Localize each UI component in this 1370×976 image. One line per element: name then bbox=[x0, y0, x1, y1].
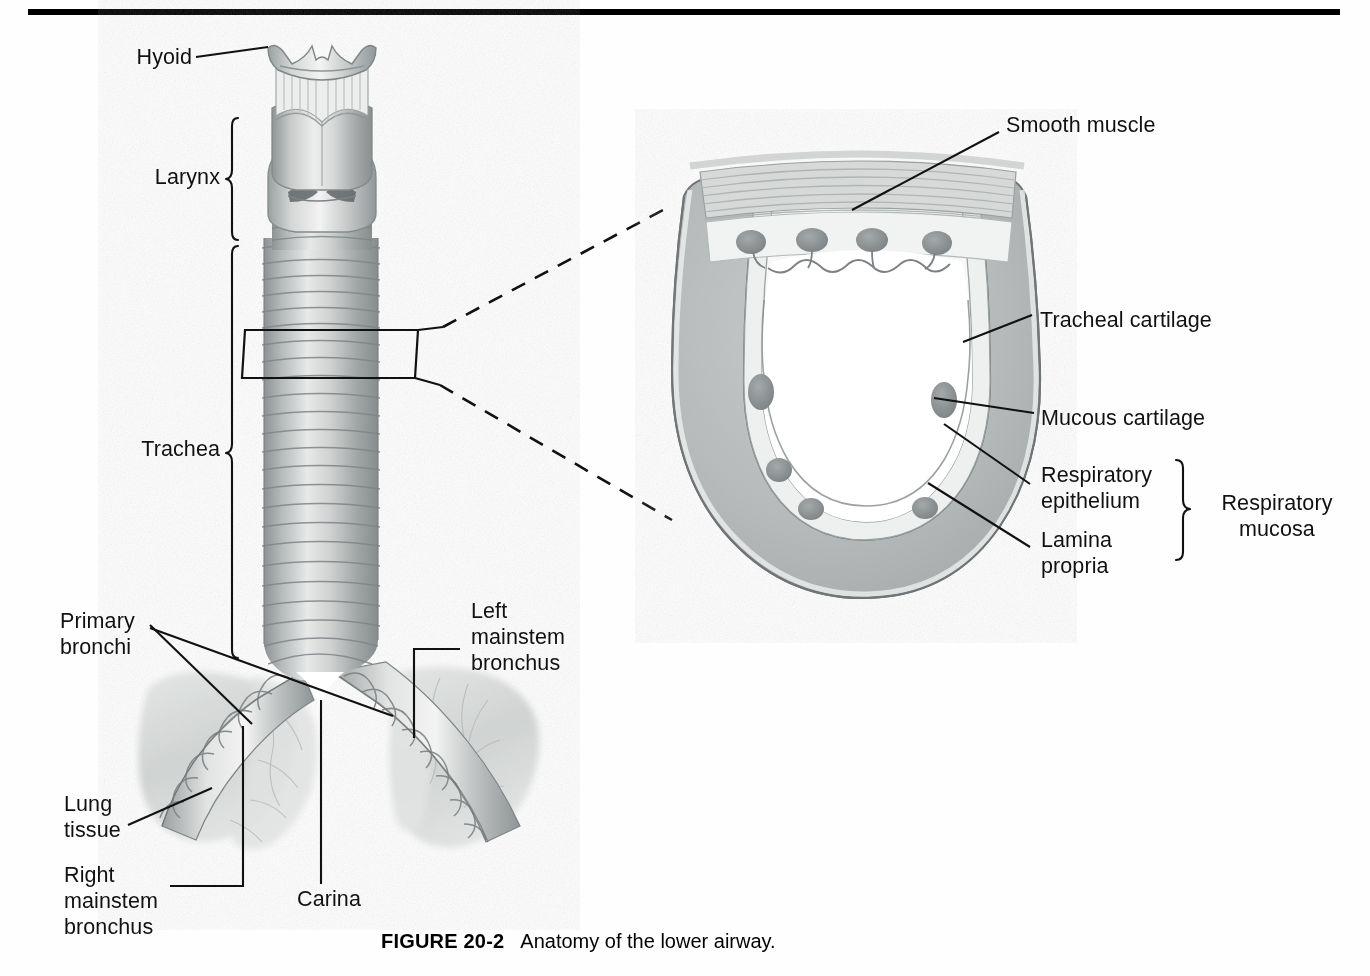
right-mainstem-bronchus-label: Right mainstem bronchus bbox=[64, 862, 158, 940]
expansion-line-top bbox=[443, 210, 663, 327]
larynx-label: Larynx bbox=[44, 164, 220, 190]
figure-caption: FIGURE 20-2Anatomy of the lower airway. bbox=[381, 929, 776, 953]
hyoid-label: Hyoid bbox=[36, 44, 192, 70]
left-mainstem-line1: Left bbox=[471, 598, 565, 624]
lung-tissue-label: Lung tissue bbox=[64, 791, 121, 843]
trachea-brace bbox=[226, 246, 238, 658]
respiratory-epithelium-line2: epithelium bbox=[1041, 488, 1152, 514]
figure-number: FIGURE 20-2 bbox=[381, 930, 504, 952]
respiratory-mucosa-label: Respiratory mucosa bbox=[1202, 490, 1352, 542]
left-mainstem-line3: bronchus bbox=[471, 650, 565, 676]
lung-tissue-line1: Lung bbox=[64, 791, 121, 817]
respiratory-mucosa-brace bbox=[1176, 460, 1190, 560]
larynx-brace bbox=[226, 118, 238, 240]
tracheal-cross-section-art bbox=[672, 154, 1040, 598]
respiratory-mucosa-line2: mucosa bbox=[1202, 516, 1352, 542]
figure-artwork bbox=[0, 0, 1370, 976]
lamina-propria-line2: propria bbox=[1041, 553, 1112, 579]
left-mainstem-line2: mainstem bbox=[471, 624, 565, 650]
right-mainstem-line2: mainstem bbox=[64, 888, 158, 914]
lung-tissue-line2: tissue bbox=[64, 817, 121, 843]
expansion-line-bottom bbox=[440, 385, 672, 520]
trachea-label: Trachea bbox=[36, 436, 220, 462]
figure-caption-text: Anatomy of the lower airway. bbox=[520, 930, 775, 952]
right-mainstem-line3: bronchus bbox=[64, 914, 158, 940]
smooth-muscle-band bbox=[690, 154, 1024, 220]
lamina-propria-line1: Lamina bbox=[1041, 527, 1112, 553]
tracheal-cartilage-label: Tracheal cartilage bbox=[1040, 307, 1212, 333]
right-mainstem-line1: Right bbox=[64, 862, 158, 888]
primary-bronchi-line2: bronchi bbox=[60, 634, 135, 660]
mucous-cartilage-label: Mucous cartilage bbox=[1041, 405, 1205, 431]
section-plane-right-bot bbox=[415, 378, 440, 385]
carina-label: Carina bbox=[297, 886, 361, 912]
respiratory-mucosa-line1: Respiratory bbox=[1202, 490, 1352, 516]
trachea bbox=[262, 238, 380, 712]
primary-bronchi-line1: Primary bbox=[60, 608, 135, 634]
respiratory-epithelium-label: Respiratory epithelium bbox=[1041, 462, 1152, 514]
primary-bronchi-label: Primary bronchi bbox=[60, 608, 135, 660]
figure-root: Hyoid Larynx Trachea Primary bronchi Lef… bbox=[0, 0, 1370, 976]
lamina-propria-label: Lamina propria bbox=[1041, 527, 1112, 579]
respiratory-epithelium-line1: Respiratory bbox=[1041, 462, 1152, 488]
smooth-muscle-label: Smooth muscle bbox=[1006, 112, 1155, 138]
left-mainstem-bronchus-label: Left mainstem bronchus bbox=[471, 598, 565, 676]
section-plane-right-top bbox=[418, 327, 443, 330]
hyoid-leader bbox=[196, 47, 268, 57]
